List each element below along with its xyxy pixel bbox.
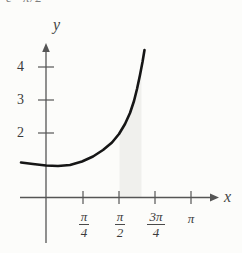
x-tick-label-pi-over-2: π 2 (105, 210, 135, 241)
y-axis-label: y (53, 16, 60, 34)
fraction: π 2 (115, 210, 126, 240)
fraction: 3π 4 (147, 210, 164, 240)
x-axis-label: x (224, 188, 231, 206)
fraction-denominator: 2 (115, 224, 126, 240)
fraction-numerator: π (115, 210, 126, 224)
y-tick-label-3: 3 (4, 92, 24, 108)
fraction-denominator: 4 (79, 224, 90, 240)
x-axis-arrowhead-icon (210, 194, 219, 202)
fraction-denominator: 4 (147, 224, 164, 240)
fraction-numerator: π (79, 210, 90, 224)
y-axis-arrowhead-icon (42, 43, 50, 52)
tick-marks (38, 67, 191, 204)
x-tick-label-pi-over-4: π 4 (69, 210, 99, 241)
y-tick-label-2: 2 (4, 125, 24, 141)
x-tick-label-3pi-over-4: 3π 4 (141, 210, 171, 241)
figure-canvas: e π/2 y x 4 3 2 π 4 π 2 3π 4 π (0, 0, 242, 253)
x-tick-label-pi: π (176, 211, 206, 227)
y-tick-label-4: 4 (4, 59, 24, 75)
fraction-numerator: 3π (147, 210, 164, 224)
fraction: π 4 (79, 210, 90, 240)
